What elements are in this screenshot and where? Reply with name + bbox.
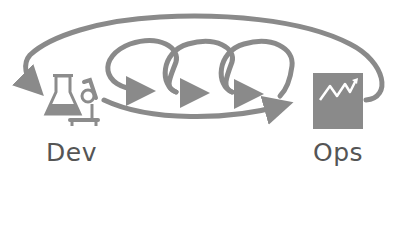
- monitoring-chart-icon: [313, 73, 363, 129]
- ops-label: Ops: [313, 138, 363, 167]
- dev-to-ops-arrow: [104, 100, 280, 117]
- dev-label: Dev: [46, 138, 97, 167]
- lab-flask-microscope-icon: [46, 74, 98, 126]
